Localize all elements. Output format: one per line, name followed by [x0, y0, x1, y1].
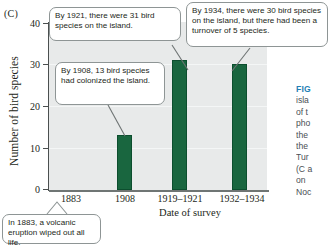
leader-line-1908	[106, 104, 130, 138]
figure-caption-label: FIG	[296, 84, 328, 95]
bar-1908	[117, 135, 132, 190]
plot-baseline	[49, 190, 269, 192]
callout-1908: By 1908, 13 bird species had colonized t…	[55, 62, 165, 105]
figure-caption-line-8: on	[296, 175, 328, 186]
leader-line-1883	[44, 201, 72, 215]
x-tick-label-1932-1934: 1932–1934	[210, 193, 274, 204]
figure-caption: FIG isla of t pho the the Tur (C a on No…	[296, 84, 328, 198]
x-tick-label-1919-1921: 1919–1921	[148, 193, 212, 204]
figure-caption-line-9: Noc	[296, 187, 328, 198]
y-tick-30	[43, 64, 48, 65]
figure-caption-line-1: isla	[296, 95, 328, 106]
y-tick-0	[43, 189, 48, 190]
figure-caption-line-7: (C a	[296, 164, 328, 175]
callout-1921: By 1921, there were 31 bird species on t…	[49, 7, 181, 41]
figure-caption-line-3: pho	[296, 118, 328, 129]
y-axis-line	[48, 22, 49, 191]
callout-1934: By 1934, there were 30 bird species on t…	[186, 2, 328, 47]
y-axis-title: Number of bird species	[8, 31, 20, 191]
figure-caption-line-5: the	[296, 141, 328, 152]
bar-1932-1934	[232, 64, 247, 190]
figure-caption-line-6: Tur	[296, 152, 328, 163]
leader-line-1934	[228, 47, 254, 73]
figure-caption-line-2: of t	[296, 107, 328, 118]
figure-panel-c: (C) 40 30 20 10 0 Number of bird species…	[0, 0, 328, 247]
callout-1883: In 1883, a volcanic eruption wiped out a…	[2, 214, 101, 244]
y-tick-10	[43, 148, 48, 149]
y-tick-40	[43, 23, 48, 24]
figure-caption-line-4: the	[296, 130, 328, 141]
x-tick-label-1908: 1908	[100, 193, 150, 204]
y-tick-label-40: 40	[14, 18, 40, 29]
y-tick-20	[43, 106, 48, 107]
x-axis-title: Date of survey	[120, 207, 260, 218]
bar-1919-1921	[172, 60, 187, 190]
leader-line-1921	[170, 44, 194, 72]
